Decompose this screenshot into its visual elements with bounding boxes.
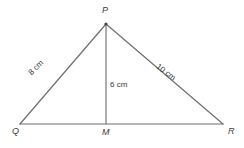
vertex-label-r: R (228, 127, 235, 136)
vertex-label-m: M (102, 128, 110, 137)
triangle-diagram (0, 0, 244, 148)
vertex-label-p: P (102, 6, 108, 15)
geometry-figure: P Q M R 8 cm 10 cm 6 cm (0, 0, 244, 148)
vertex-label-q: Q (12, 127, 19, 136)
vertex-point-p (104, 22, 107, 25)
altitude-length-label-pm: 6 cm (110, 81, 127, 89)
